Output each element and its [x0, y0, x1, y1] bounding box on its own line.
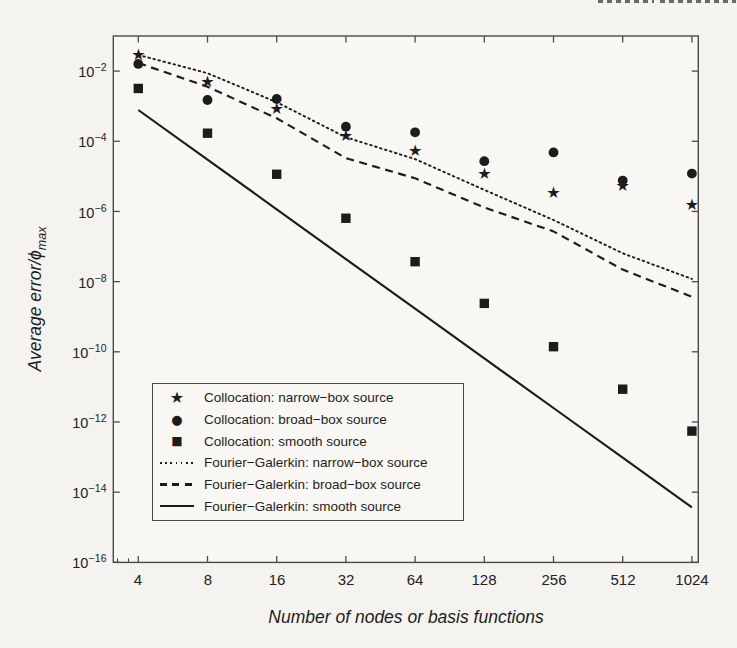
marker-square-collocation-smooth-source	[272, 170, 281, 179]
x-tick-label: 128	[471, 572, 496, 587]
marker-star-collocation-narrow-box-source: ★	[477, 164, 491, 183]
y-tick-label: 10−4	[78, 132, 107, 149]
legend-item: ■ Collocation: smooth source	[157, 431, 463, 452]
marker-star-collocation-narrow-box-source: ★	[408, 141, 422, 160]
scanned-book-figure: ★★★★★★★★★ 10−2 10−4 10−6 10−8 10−10 10−1…	[0, 0, 737, 648]
legend-item-label: Collocation: narrow−box source	[204, 390, 393, 405]
y-tick-label: 10−14	[72, 483, 107, 500]
marker-star-collocation-narrow-box-source: ★	[685, 195, 699, 214]
marker-circle-collocation-broad-box-source	[203, 95, 213, 105]
x-tick-label: 1024	[675, 572, 708, 587]
x-tick-label: 64	[407, 572, 424, 587]
y-axis-title: Average error/ϕmax	[25, 227, 49, 372]
dotted-line-icon	[157, 462, 197, 464]
legend-item: ★ Collocation: narrow−box source	[157, 387, 463, 408]
legend-item: Fourier−Galerkin: broad−box source	[157, 474, 463, 495]
dashed-line-icon	[157, 483, 197, 485]
marker-circle-collocation-broad-box-source	[479, 156, 489, 166]
star-marker-icon: ★	[157, 390, 197, 406]
convergence-log-log-chart: ★★★★★★★★★	[0, 0, 737, 648]
legend-item-label: Collocation: smooth source	[204, 434, 367, 449]
marker-square-collocation-smooth-source	[618, 384, 627, 393]
legend-box: ★ Collocation: narrow−box source ● Collo…	[152, 383, 464, 521]
marker-circle-collocation-broad-box-source	[272, 94, 282, 104]
square-marker-icon: ■	[157, 435, 197, 447]
x-tick-label: 8	[204, 572, 212, 587]
legend-item: Fourier−Galerkin: smooth source	[157, 496, 463, 517]
x-tick-label: 4	[134, 572, 142, 587]
marker-square-collocation-smooth-source	[687, 426, 696, 435]
legend-item-label: Collocation: broad−box source	[204, 412, 387, 427]
marker-star-collocation-narrow-box-source: ★	[200, 72, 214, 91]
marker-square-collocation-smooth-source	[203, 128, 212, 137]
marker-circle-collocation-broad-box-source	[549, 148, 559, 158]
legend-item: ● Collocation: broad−box source	[157, 409, 463, 430]
marker-square-collocation-smooth-source	[480, 299, 489, 308]
circle-marker-icon: ●	[157, 413, 197, 426]
marker-circle-collocation-broad-box-source	[618, 176, 628, 186]
x-tick-label: 16	[269, 572, 286, 587]
y-tick-label: 10−2	[78, 62, 107, 79]
x-tick-label: 512	[610, 572, 635, 587]
legend-item: Fourier−Galerkin: narrow−box source	[157, 452, 463, 473]
legend-item-label: Fourier−Galerkin: smooth source	[204, 499, 401, 514]
marker-square-collocation-smooth-source	[341, 214, 350, 223]
marker-circle-collocation-broad-box-source	[687, 169, 697, 179]
legend-item-label: Fourier−Galerkin: narrow−box source	[204, 455, 428, 470]
marker-circle-collocation-broad-box-source	[341, 122, 351, 132]
marker-circle-collocation-broad-box-source	[410, 127, 420, 137]
y-tick-label: 10−16	[72, 553, 107, 570]
y-tick-label: 10−10	[72, 343, 107, 360]
x-axis-title: Number of nodes or basis functions	[268, 607, 543, 628]
marker-circle-collocation-broad-box-source	[133, 59, 143, 69]
legend-item-label: Fourier−Galerkin: broad−box source	[204, 477, 421, 492]
x-tick-label: 256	[541, 572, 566, 587]
y-tick-label: 10−12	[72, 413, 107, 430]
x-tick-label: 32	[338, 572, 355, 587]
marker-square-collocation-smooth-source	[134, 84, 143, 93]
solid-line-icon	[157, 505, 197, 507]
marker-square-collocation-smooth-source	[410, 257, 419, 266]
y-tick-label: 10−8	[78, 273, 107, 290]
y-tick-label: 10−6	[78, 203, 107, 220]
marker-square-collocation-smooth-source	[549, 342, 558, 351]
marker-star-collocation-narrow-box-source: ★	[546, 183, 560, 202]
